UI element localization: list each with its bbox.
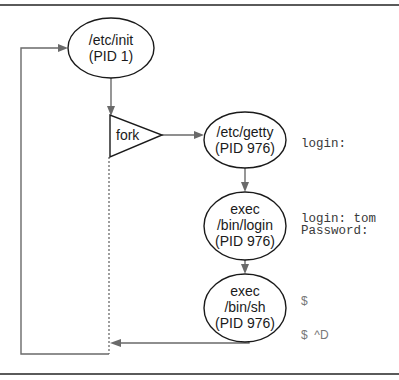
shell-label-path: /bin/sh	[224, 299, 265, 315]
login-terminal-password: Password:	[301, 224, 369, 238]
shell-label-exec: exec	[230, 283, 260, 299]
process-lifecycle-diagram: /etc/init (PID 1) fork /etc/getty (PID 9…	[0, 0, 399, 380]
node-shell: exec /bin/sh (PID 976)	[204, 274, 286, 342]
fork-label: fork	[116, 127, 140, 143]
shell-label-pid: (PID 976)	[215, 315, 275, 331]
edge-loop-back-to-init	[21, 44, 109, 354]
getty-terminal-prompt: login:	[301, 137, 346, 151]
node-getty: /etc/getty (PID 976)	[204, 112, 286, 168]
edge-getty-to-login	[241, 168, 249, 192]
init-label-path: /etc/init	[89, 32, 133, 48]
getty-label-path: /etc/getty	[217, 124, 274, 140]
init-label-pid: (PID 1)	[89, 48, 133, 64]
node-login: exec /bin/login (PID 976)	[204, 192, 286, 260]
shell-terminal-prompt: $	[301, 294, 308, 308]
getty-label-pid: (PID 976)	[215, 140, 275, 156]
edge-init-to-fork	[107, 78, 115, 116]
node-init: /etc/init (PID 1)	[68, 18, 154, 78]
node-fork: fork	[110, 115, 162, 157]
login-label-pid: (PID 976)	[215, 233, 275, 249]
edge-fork-to-getty	[162, 131, 204, 139]
login-label-exec: exec	[230, 201, 260, 217]
shell-terminal-exit: $ ^D	[301, 328, 329, 342]
edge-shell-exit-to-parent	[110, 339, 249, 347]
edge-login-to-shell	[241, 260, 249, 274]
login-label-path: /bin/login	[217, 217, 273, 233]
